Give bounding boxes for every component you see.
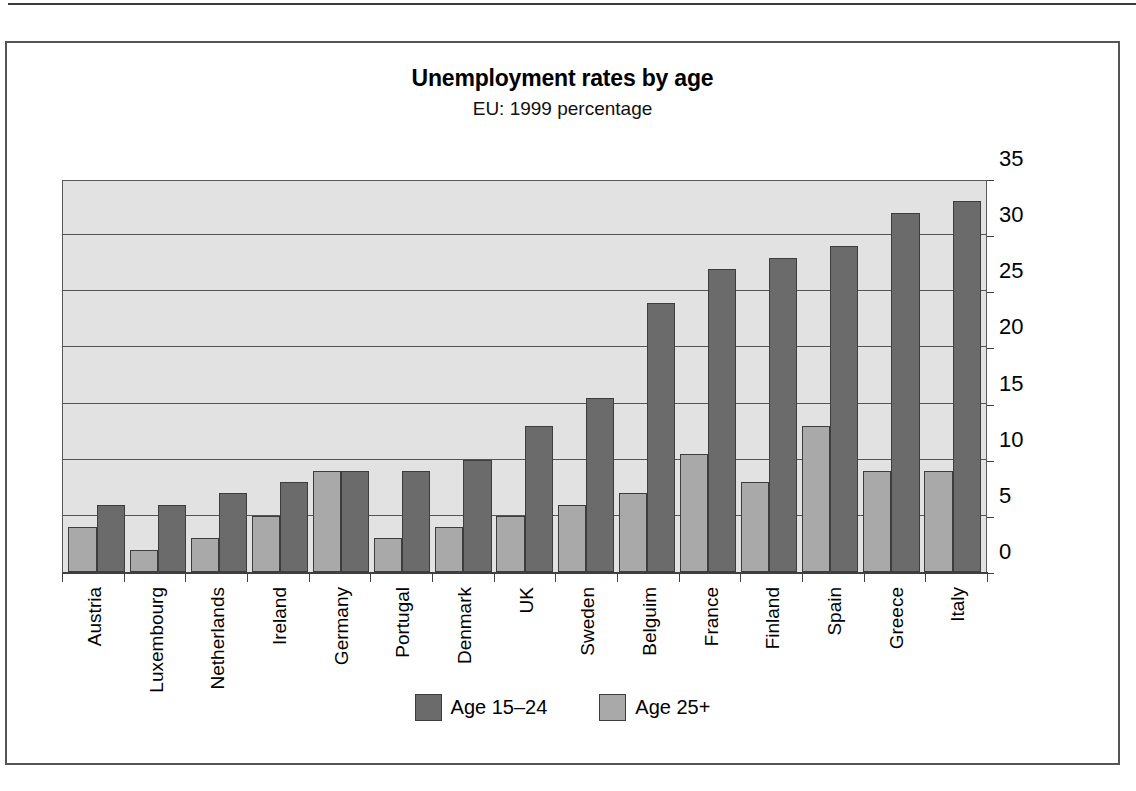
bar-age-25-plus — [252, 516, 280, 572]
bar-age-25-plus — [680, 454, 708, 572]
x-axis-label-cell: Ireland — [247, 583, 309, 693]
bar-age-25-plus — [741, 482, 769, 572]
y-axis-tick — [987, 236, 994, 237]
x-axis-label-cell: Luxembourg — [124, 583, 186, 693]
x-axis-category-label: Netherlands — [207, 587, 229, 689]
x-axis-label-cell: Belguim — [617, 583, 679, 693]
legend-entry: Age 25+ — [599, 694, 710, 721]
plot-area — [62, 180, 987, 573]
bar-group — [249, 181, 310, 572]
legend-label: Age 15–24 — [451, 696, 548, 719]
x-axis-tick — [555, 574, 556, 582]
x-axis-label-cell: Italy — [925, 583, 987, 693]
bar-group — [372, 181, 433, 572]
bar-group — [677, 181, 738, 572]
x-axis-category-label: France — [701, 587, 723, 646]
bar-age-25-plus — [924, 471, 952, 572]
x-axis-ticks — [62, 574, 987, 582]
page-top-rule — [8, 3, 1136, 5]
y-axis-tick-labels: 05101520253035 — [999, 180, 1059, 574]
bar-age-15-24 — [830, 246, 858, 572]
x-axis-label-cell: Sweden — [555, 583, 617, 693]
y-axis-tick — [987, 517, 994, 518]
y-axis-tick-label: 0 — [999, 541, 1011, 563]
bar-group — [433, 181, 494, 572]
legend-entry: Age 15–24 — [415, 694, 548, 721]
bar-age-15-24 — [953, 201, 981, 572]
bar-age-25-plus — [191, 538, 219, 572]
x-axis-category-labels: AustriaLuxembourgNetherlandsIrelandGerma… — [62, 583, 987, 693]
bar-age-25-plus — [496, 516, 524, 572]
y-axis-ticks — [987, 180, 995, 574]
x-axis-tick — [309, 574, 310, 582]
legend-swatch — [415, 694, 442, 721]
x-axis-category-label: Spain — [824, 587, 846, 636]
bar-group — [66, 181, 127, 572]
y-axis-tick — [987, 180, 994, 181]
x-axis-category-label: Portugal — [392, 587, 414, 658]
bar-group — [311, 181, 372, 572]
bar-group — [494, 181, 555, 572]
bar-age-25-plus — [435, 527, 463, 572]
y-axis-tick-label: 35 — [999, 148, 1023, 170]
x-axis-label-cell: Netherlands — [185, 583, 247, 693]
y-axis-tick — [987, 573, 994, 574]
legend-label: Age 25+ — [635, 696, 710, 719]
x-axis-label-cell: UK — [494, 583, 556, 693]
y-axis-tick — [987, 461, 994, 462]
x-axis-category-label: Italy — [947, 587, 969, 622]
bar-age-25-plus — [130, 550, 158, 572]
bar-age-15-24 — [647, 303, 675, 572]
y-axis-tick-label: 25 — [999, 260, 1023, 282]
y-axis-tick-label: 15 — [999, 373, 1023, 395]
x-axis-tick — [864, 574, 865, 582]
x-axis-category-label: Denmark — [454, 587, 476, 664]
x-axis-category-label: UK — [516, 587, 538, 613]
bar-group — [861, 181, 922, 572]
bar-age-15-24 — [769, 258, 797, 572]
bars-layer — [63, 181, 986, 572]
bar-age-25-plus — [558, 505, 586, 572]
bar-age-15-24 — [463, 460, 491, 572]
y-axis-tick-label: 30 — [999, 204, 1023, 226]
x-axis-tick — [185, 574, 186, 582]
x-axis-label-cell: Greece — [864, 583, 926, 693]
bar-age-25-plus — [313, 471, 341, 572]
x-axis-tick — [247, 574, 248, 582]
bar-age-15-24 — [525, 426, 553, 572]
bar-age-15-24 — [891, 213, 919, 572]
y-axis-tick-label: 10 — [999, 429, 1023, 451]
x-axis-tick — [617, 574, 618, 582]
x-axis-label-cell: Austria — [62, 583, 124, 693]
x-axis-category-label: Greece — [886, 587, 908, 649]
x-axis-tick — [802, 574, 803, 582]
bar-age-25-plus — [802, 426, 830, 572]
y-axis-tick — [987, 348, 994, 349]
x-axis-category-label: Ireland — [269, 587, 291, 645]
bar-group — [922, 181, 983, 572]
bar-age-15-24 — [708, 269, 736, 572]
bar-group — [127, 181, 188, 572]
bar-age-15-24 — [341, 471, 369, 572]
chart-title: Unemployment rates by age — [7, 65, 1118, 92]
x-axis-label-cell: Germany — [309, 583, 371, 693]
x-axis-tick — [987, 574, 988, 582]
chart-legend: Age 15–24Age 25+ — [7, 694, 1118, 721]
bar-age-15-24 — [586, 398, 614, 572]
x-axis-category-label: Germany — [331, 587, 353, 665]
x-axis-category-label: Sweden — [577, 587, 599, 656]
x-axis-category-label: Belguim — [639, 587, 661, 656]
x-axis-tick — [62, 574, 63, 582]
x-axis-tick — [925, 574, 926, 582]
bar-age-15-24 — [158, 505, 186, 572]
x-axis-tick — [494, 574, 495, 582]
bar-age-15-24 — [402, 471, 430, 572]
x-axis-label-cell: Finland — [740, 583, 802, 693]
y-axis-tick — [987, 292, 994, 293]
bar-age-25-plus — [374, 538, 402, 572]
x-axis-tick — [432, 574, 433, 582]
bar-age-15-24 — [280, 482, 308, 572]
y-axis-tick — [987, 405, 994, 406]
bar-age-15-24 — [219, 493, 247, 572]
y-axis-tick-label: 20 — [999, 316, 1023, 338]
